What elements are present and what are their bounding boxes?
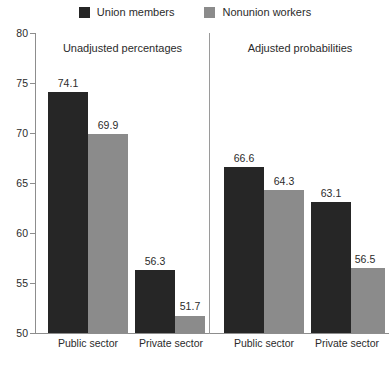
group-label-public-adjusted: Public sector	[216, 337, 312, 349]
bar-union-public-adjusted	[224, 167, 264, 333]
panel-title-unadjusted: Unadjusted percentages	[36, 42, 209, 54]
y-tick-label-50: 50	[4, 328, 28, 338]
legend-entry-union-members: Union members	[79, 7, 175, 18]
y-tick-mark-50	[30, 333, 35, 334]
panel-divider	[209, 33, 210, 334]
bar-nonunion-public-adjusted	[264, 190, 304, 333]
legend-entry-nonunion-workers: Nonunion workers	[204, 7, 311, 18]
bar-value-nonunion-private-unadjusted: 51.7	[163, 301, 217, 312]
legend-swatch-dark-icon	[79, 7, 90, 18]
chart-legend: Union members Nonunion workers	[0, 7, 390, 18]
bar-value-union-public-unadjusted: 74.1	[48, 78, 88, 89]
bar-nonunion-private-adjusted	[351, 268, 385, 333]
bar-value-nonunion-private-adjusted: 56.5	[340, 254, 390, 265]
y-tick-mark-70	[30, 133, 35, 134]
legend-label-nonunion-workers: Nonunion workers	[222, 7, 311, 18]
y-tick-label-65: 65	[4, 178, 28, 188]
y-axis-line	[35, 33, 36, 334]
bar-value-nonunion-public-unadjusted: 69.9	[88, 120, 128, 131]
legend-swatch-gray-icon	[204, 7, 215, 18]
bar-nonunion-private-unadjusted	[175, 316, 205, 333]
y-tick-label-55: 55	[4, 278, 28, 288]
panel-title-adjusted: Adjusted probabilities	[210, 42, 390, 54]
y-tick-label-75: 75	[4, 78, 28, 88]
y-tick-mark-80	[30, 33, 35, 34]
x-axis-line	[35, 333, 389, 334]
bar-value-union-private-unadjusted: 56.3	[135, 256, 175, 267]
y-tick-label-80: 80	[4, 28, 28, 38]
bar-value-union-private-adjusted: 63.1	[311, 188, 351, 199]
y-tick-mark-55	[30, 283, 35, 284]
y-tick-label-60: 60	[4, 228, 28, 238]
y-tick-mark-75	[30, 83, 35, 84]
y-tick-mark-65	[30, 183, 35, 184]
bar-chart-figure: Union members Nonunion workers 80 75 70 …	[0, 0, 390, 368]
group-label-private-adjusted: Private sector	[301, 337, 390, 349]
group-label-private-unadjusted: Private sector	[123, 337, 219, 349]
legend-label-union-members: Union members	[97, 7, 175, 18]
bar-nonunion-public-unadjusted	[88, 134, 128, 333]
bar-union-private-adjusted	[311, 202, 351, 333]
y-tick-label-70: 70	[4, 128, 28, 138]
bar-value-union-public-adjusted: 66.6	[224, 153, 264, 164]
group-label-public-unadjusted: Public sector	[40, 337, 136, 349]
bar-union-public-unadjusted	[48, 92, 88, 333]
y-tick-mark-60	[30, 233, 35, 234]
bar-value-nonunion-public-adjusted: 64.3	[264, 176, 304, 187]
